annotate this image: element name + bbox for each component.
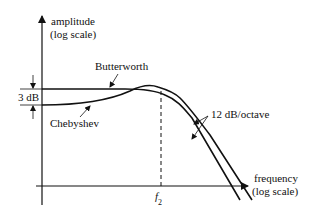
- butterworth-label: Butterworth: [95, 60, 149, 72]
- y-axis-label-line1: amplitude: [51, 15, 95, 27]
- chebyshev-curve: [42, 86, 252, 200]
- cutoff-label: f2: [155, 190, 162, 207]
- chebyshev-pointer: [80, 106, 90, 117]
- butterworth-pointer: [110, 74, 118, 87]
- ripple-label: 3 dB: [18, 91, 39, 103]
- y-axis-label-line2: (log scale): [50, 28, 96, 41]
- rolloff-label: 12 dB/octave: [211, 108, 269, 120]
- rolloff-pointer-2: [192, 116, 208, 139]
- butterworth-curve: [42, 89, 240, 200]
- x-axis-label-line2: (log scale): [252, 185, 298, 198]
- filter-response-diagram: amplitude (log scale) frequency (log sca…: [0, 0, 310, 213]
- x-axis-label-line1: frequency: [254, 172, 298, 184]
- chebyshev-label: Chebyshev: [50, 117, 99, 129]
